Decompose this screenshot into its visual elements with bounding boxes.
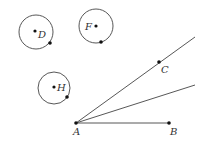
center-point <box>94 24 97 27</box>
ray-A-lower <box>76 85 195 123</box>
boundary-point <box>99 40 103 44</box>
label-B: B <box>169 126 177 137</box>
geometry-diagram: DFHABC <box>0 0 208 142</box>
point-dot <box>167 121 171 125</box>
label-C: C <box>161 64 169 75</box>
point-B: B <box>167 121 177 137</box>
label-D: D <box>37 29 46 40</box>
label-A: A <box>72 126 80 137</box>
point-A: A <box>72 121 80 137</box>
circle-F: F <box>79 9 113 44</box>
center-point <box>33 29 36 32</box>
boundary-point <box>65 95 69 99</box>
center-point <box>52 85 55 88</box>
boundary-point <box>48 41 52 45</box>
point-dot <box>74 121 78 125</box>
circle-D: D <box>19 15 53 49</box>
point-C: C <box>157 60 169 75</box>
label-F: F <box>84 21 93 32</box>
label-H: H <box>56 82 66 93</box>
circle-H: H <box>38 72 70 104</box>
ray-AC <box>76 37 195 123</box>
